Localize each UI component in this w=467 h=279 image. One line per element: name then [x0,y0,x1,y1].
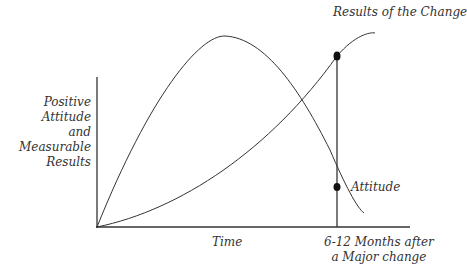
results-curve-label: Results of the Change [333,5,467,20]
attitude-curve-label: Attitude [351,180,400,195]
y-label-line: Measurable [19,140,91,155]
marker-label-line: a Major change [324,250,434,265]
marker-label: 6-12 Months after a Major change [324,235,434,265]
y-label-line: Attitude [19,110,91,125]
y-label-line: Positive [19,95,91,110]
y-label-line: Results [19,155,91,170]
results-curve [97,33,375,227]
results-dot [334,52,341,61]
y-label-line: and [19,125,91,140]
attitude-curve [97,36,364,227]
marker-label-line: 6-12 Months after [324,235,434,250]
y-axis-label: Positive Attitude and Measurable Results [19,95,91,170]
x-axis-label: Time [212,235,242,250]
attitude-dot [334,183,341,191]
